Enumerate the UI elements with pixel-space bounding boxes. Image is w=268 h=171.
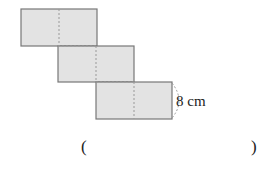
cube-net-figure (0, 0, 268, 171)
answer-open-paren: ( (81, 138, 87, 155)
answer-close-paren: ) (251, 138, 257, 155)
dimension-label: 8 cm (176, 94, 206, 109)
